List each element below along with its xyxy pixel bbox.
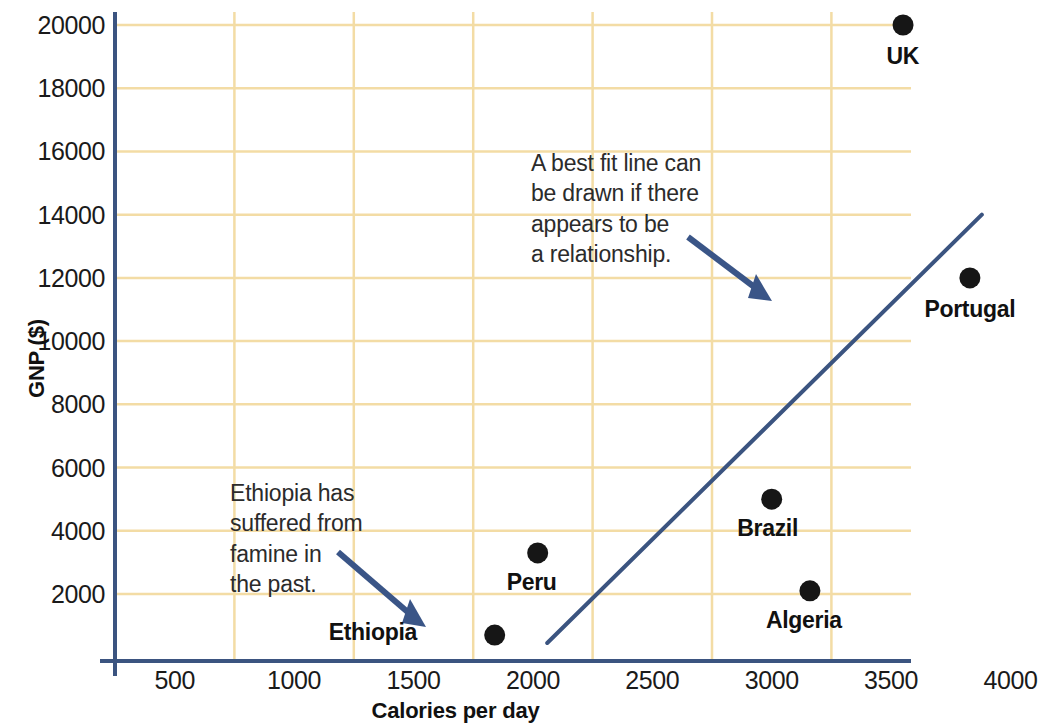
best-fit-annotation-text: A best fit line can be drawn if there ap… bbox=[531, 148, 701, 269]
x-tick-label-4000: 4000 bbox=[951, 668, 1042, 693]
data-point-portugal bbox=[959, 267, 980, 288]
point-label-ethiopia: Ethiopia bbox=[329, 621, 417, 644]
point-label-algeria: Algeria bbox=[766, 609, 842, 632]
ethiopia-annotation-text: Ethiopia has suffered from famine in the… bbox=[230, 478, 362, 599]
y-axis-title: GNP ($) bbox=[24, 319, 50, 398]
point-label-peru: Peru bbox=[507, 571, 557, 594]
point-label-brazil: Brazil bbox=[737, 517, 798, 540]
x-axis-title: Calories per day bbox=[0, 698, 911, 724]
point-label-uk: UK bbox=[887, 45, 920, 68]
point-label-portugal: Portugal bbox=[924, 298, 1015, 321]
